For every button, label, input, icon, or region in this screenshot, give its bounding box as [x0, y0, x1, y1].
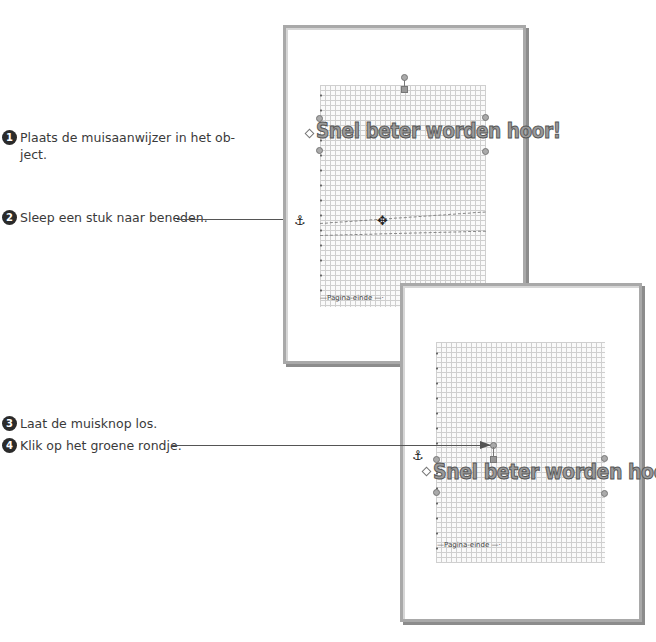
page-break-marker: —Pagina-einde —·	[437, 541, 501, 549]
step-3: 3 Laat de muisknop los.	[2, 415, 157, 432]
step-number-badge: 4	[2, 438, 17, 453]
wrap-handle[interactable]	[305, 129, 315, 139]
adjust-handle[interactable]	[401, 86, 408, 93]
anchor-icon: ⚓	[294, 213, 306, 228]
step-number-badge: 3	[2, 416, 17, 431]
leader-line-step-4	[172, 445, 490, 446]
step-2: 2 Sleep een stuk naar beneden.	[2, 209, 208, 226]
rotate-handle[interactable]	[401, 74, 408, 81]
resize-handle-bl[interactable]	[316, 147, 323, 154]
resize-handle-bl[interactable]	[433, 489, 440, 496]
move-cursor-icon: ✥	[377, 214, 388, 227]
wordart-text[interactable]: Snel beter worden hoor!	[433, 460, 656, 484]
ruler-marks	[436, 346, 438, 551]
step-1: 1 Plaats de muisaanwijzer in het ob- jec…	[2, 129, 260, 163]
resize-handle-br[interactable]	[482, 148, 489, 155]
anchor-icon: ⚓	[412, 448, 424, 463]
step-number-badge: 1	[2, 130, 17, 145]
page-grid	[436, 342, 605, 563]
step-1-text: Plaats de muisaanwijzer in het ob- ject.	[20, 129, 260, 163]
resize-handle-br[interactable]	[601, 490, 608, 497]
step-4-text: Klik op het groene rondje.	[20, 437, 182, 454]
step-4: 4 Klik op het groene rondje.	[2, 437, 182, 454]
step-2-text: Sleep een stuk naar beneden.	[20, 209, 208, 226]
screenshot-after: Snel beter worden hoor! ⚓ —Pagina-einde …	[400, 283, 642, 622]
step-number-badge: 2	[2, 210, 17, 225]
wrap-handle[interactable]	[422, 467, 432, 477]
wordart-text[interactable]: Snel beter worden hoor!	[316, 119, 561, 143]
arrowhead-step-4	[480, 441, 491, 449]
page-break-marker: —Pagina-einde —·	[320, 294, 384, 302]
step-3-text: Laat de muisknop los.	[20, 415, 157, 432]
